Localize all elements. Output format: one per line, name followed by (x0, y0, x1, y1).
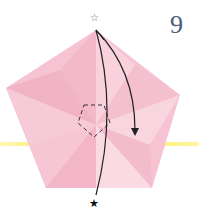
pentagon-paper (6, 30, 180, 188)
step-number: 9 (170, 10, 183, 40)
star-outline-icon: ☆ (90, 12, 99, 23)
star-filled-icon: ★ (89, 197, 99, 210)
